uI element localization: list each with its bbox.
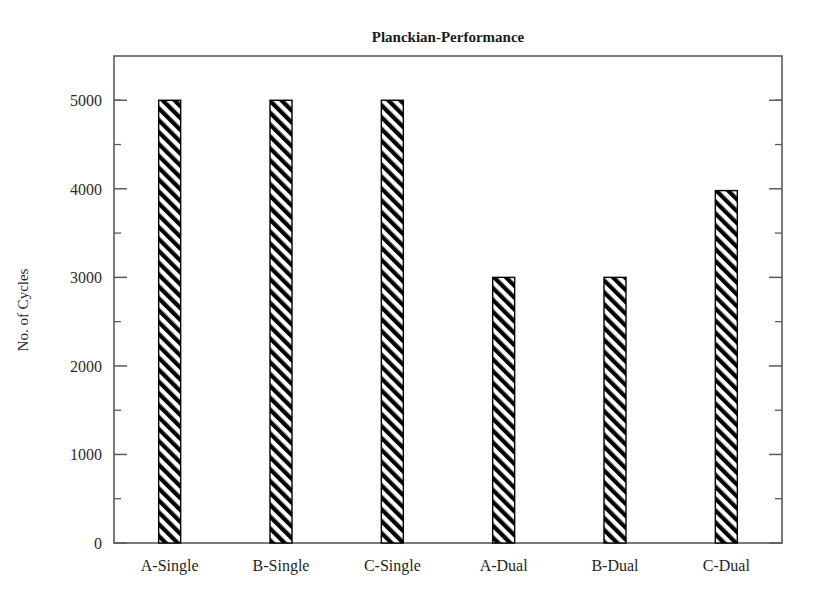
x-category-label: A-Single bbox=[141, 557, 199, 575]
bar bbox=[381, 100, 403, 543]
bar bbox=[715, 191, 737, 543]
y-tick-label: 0 bbox=[94, 535, 102, 552]
bar bbox=[604, 277, 626, 543]
chart-title: Planckian-Performance bbox=[372, 29, 525, 45]
x-category-label: C-Dual bbox=[703, 557, 751, 574]
bar bbox=[159, 100, 181, 543]
y-tick-label: 3000 bbox=[70, 269, 102, 286]
y-tick-label: 1000 bbox=[70, 446, 102, 463]
x-category-label: B-Dual bbox=[591, 557, 639, 574]
figure-background bbox=[0, 0, 813, 599]
bar bbox=[493, 277, 515, 543]
y-tick-label: 4000 bbox=[70, 181, 102, 198]
x-category-label: A-Dual bbox=[480, 557, 529, 574]
chart-figure: Planckian-Performance No. of Cycles 0100… bbox=[0, 0, 813, 599]
y-tick-label: 5000 bbox=[70, 92, 102, 109]
bar bbox=[270, 100, 292, 543]
x-category-label: C-Single bbox=[364, 557, 421, 575]
x-category-label: B-Single bbox=[253, 557, 310, 575]
y-axis-label: No. of Cycles bbox=[15, 268, 31, 351]
y-tick-label: 2000 bbox=[70, 358, 102, 375]
